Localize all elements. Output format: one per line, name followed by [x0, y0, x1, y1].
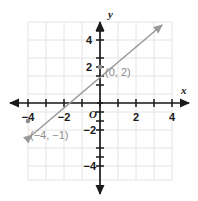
y-tick-label-4: 4 — [86, 34, 93, 46]
origin-label: O — [89, 108, 97, 120]
x-tick-label-neg2: −2 — [58, 111, 71, 123]
point-y-intercept — [98, 65, 103, 70]
x-tick-label-4: 4 — [169, 111, 176, 123]
y-tick-label-2: 2 — [86, 61, 92, 73]
coordinate-graph: y x O −4 −2 2 4 4 2 −2 −4 (0, 2) (−4, −1… — [0, 0, 198, 201]
y-axis-label: y — [106, 8, 113, 20]
plotted-line — [32, 25, 162, 135]
x-axis-label: x — [180, 84, 187, 96]
y-tick-label-neg4: −4 — [83, 160, 96, 172]
point-label-neg4-neg1: (−4, −1) — [30, 129, 69, 141]
coordinate-plane-svg: y x O −4 −2 2 4 4 2 −2 −4 (0, 2) (−4, −1… — [0, 0, 198, 201]
x-tick-label-2: 2 — [133, 111, 139, 123]
y-tick-label-neg2: −2 — [83, 124, 96, 136]
point-label-0-2: (0, 2) — [105, 66, 131, 78]
x-tick-label-neg4: −4 — [22, 111, 35, 123]
